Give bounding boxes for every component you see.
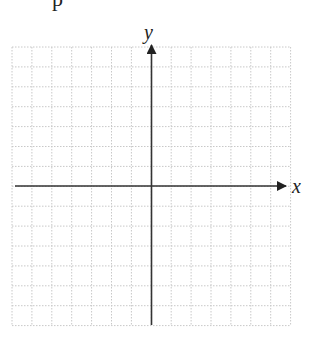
x-axis-label: x — [292, 176, 301, 196]
y-axis-label: y — [144, 22, 153, 42]
coordinate-grid — [0, 0, 318, 341]
coordinate-plane-figure: p x y — [0, 0, 318, 341]
